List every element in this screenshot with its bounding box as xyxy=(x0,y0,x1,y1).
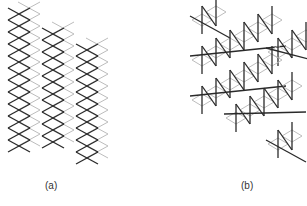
bond-line xyxy=(282,130,292,136)
bond-line xyxy=(258,28,268,34)
bond-line xyxy=(202,100,212,106)
bond-line xyxy=(192,14,202,20)
bond-line xyxy=(230,30,244,50)
bond-line xyxy=(272,14,282,20)
bond-line xyxy=(292,30,306,50)
bond-line xyxy=(292,136,302,142)
bond-line xyxy=(244,22,258,42)
bond-line xyxy=(272,20,282,26)
bond-line xyxy=(282,80,292,86)
bond-line xyxy=(268,88,278,94)
bond-line xyxy=(216,78,230,98)
bond-line xyxy=(292,44,302,50)
bond-line xyxy=(216,12,226,18)
bond-line xyxy=(258,14,272,34)
bond-line xyxy=(258,54,272,74)
bond-line xyxy=(278,80,292,100)
bond-line xyxy=(216,6,226,12)
bond-line xyxy=(202,86,216,106)
bond-line xyxy=(202,6,216,26)
bond-line xyxy=(234,70,244,76)
bond-line xyxy=(278,94,288,100)
bond-line xyxy=(192,20,202,26)
bond-line xyxy=(272,60,282,66)
bond-line xyxy=(278,38,292,58)
bond-line xyxy=(292,130,302,136)
bond-line xyxy=(220,78,230,84)
panel-b: (b) xyxy=(0,0,307,206)
panel-b-label: (b) xyxy=(241,180,253,191)
bond-line xyxy=(190,86,286,96)
bond-line xyxy=(244,36,254,42)
bond-line xyxy=(206,46,216,52)
bond-line xyxy=(192,60,202,66)
bond-line xyxy=(248,22,258,28)
bond-line xyxy=(262,54,272,60)
bond-line xyxy=(226,118,236,124)
bond-line xyxy=(240,104,250,110)
bond-line xyxy=(296,30,306,36)
bond-line xyxy=(258,68,268,74)
bond-line xyxy=(292,86,302,92)
bond-line xyxy=(230,44,240,50)
bond-line xyxy=(278,130,292,150)
bond-line xyxy=(264,102,274,108)
bond-line xyxy=(206,86,216,92)
bond-line xyxy=(236,118,246,124)
bond-line xyxy=(206,6,216,12)
bond-line xyxy=(268,144,278,150)
bond-line xyxy=(202,46,216,66)
bond-line xyxy=(264,88,278,108)
zigzag-chain-diagram xyxy=(0,0,307,206)
bond-line xyxy=(192,100,202,106)
bond-line xyxy=(230,84,240,90)
bond-line xyxy=(202,60,212,66)
bond-line xyxy=(282,38,292,44)
bond-line xyxy=(244,76,254,82)
bond-line xyxy=(262,14,272,20)
bond-line xyxy=(268,138,278,144)
bond-line xyxy=(226,112,236,118)
bond-line xyxy=(244,62,258,82)
bond-line xyxy=(234,30,244,36)
bond-line xyxy=(254,96,264,102)
bond-line xyxy=(216,38,230,58)
bond-line xyxy=(220,38,230,44)
bond-line xyxy=(248,62,258,68)
bond-line xyxy=(230,70,244,90)
bond-line xyxy=(292,80,302,86)
